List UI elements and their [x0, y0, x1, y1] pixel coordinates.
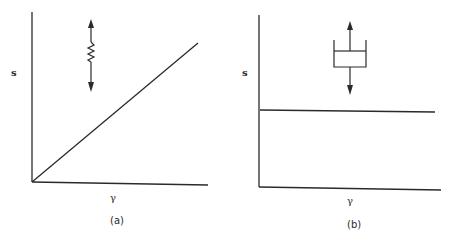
x-axis: [32, 182, 208, 185]
panel-caption: (b): [347, 220, 361, 230]
panel-caption: (a): [110, 216, 124, 226]
y-axis-label: s: [11, 68, 17, 78]
y-axis-label: s: [242, 68, 248, 78]
linear-curve: [32, 43, 198, 182]
x-axis-label: γ: [347, 196, 353, 206]
spring-icon: [88, 19, 94, 92]
panel-a: s γ (a): [0, 0, 228, 238]
constant-curve: [260, 110, 435, 112]
x-axis: [259, 187, 441, 190]
panel-b-plot: [228, 0, 456, 238]
x-axis-label: γ: [110, 193, 116, 203]
dashpot-icon: [334, 21, 366, 95]
panel-b: s γ (b): [228, 0, 456, 238]
